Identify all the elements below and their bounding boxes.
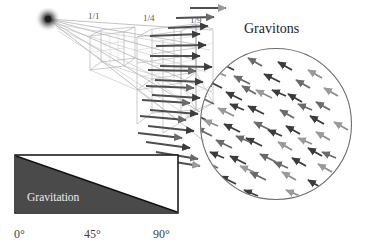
- gravitation-area-label: Gravitation: [27, 192, 79, 204]
- x-axis-tick-45: 45°: [84, 228, 101, 240]
- physics-figure: 1/1 1/4 1/9 Gravitons Gravitation 0° 45°…: [0, 0, 366, 251]
- gravitons-title: Gravitons: [244, 22, 299, 36]
- inverse-square-label-1-1: 1/1: [88, 12, 100, 21]
- inverse-square-label-1-4: 1/4: [143, 14, 155, 23]
- x-axis-tick-0: 0°: [14, 228, 25, 240]
- figure-canvas: [0, 0, 366, 251]
- inverse-square-label-1-9: 1/9: [190, 16, 202, 25]
- grid-longitudinal-lines: [55, 24, 210, 120]
- point-source: [35, 6, 61, 32]
- graviton-disc: [188, 49, 352, 200]
- gravitation-chart: [15, 155, 178, 213]
- x-axis-tick-90: 90°: [153, 228, 170, 240]
- grid-inner-panels: [90, 34, 213, 92]
- inverse-square-grid: [48, 19, 213, 141]
